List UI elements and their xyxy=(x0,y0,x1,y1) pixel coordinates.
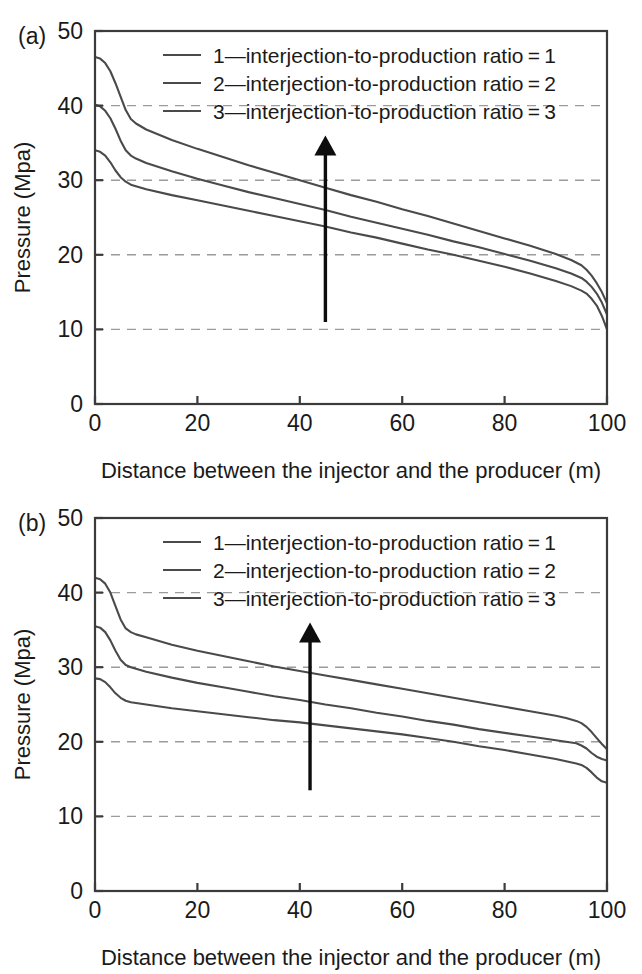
curve-ratio-1 xyxy=(95,150,607,329)
curves-group xyxy=(95,57,607,329)
legend-label-1: 1—interjection-to-production ratio = 1 xyxy=(213,531,556,554)
legend-label-3: 3—interjection-to-production ratio = 3 xyxy=(213,100,556,123)
y-tick-label-50: 50 xyxy=(57,18,83,44)
legend-label-1: 1—interjection-to-production ratio = 1 xyxy=(213,44,556,67)
y-tick-label-10: 10 xyxy=(57,803,83,829)
chart-panel-a: 02040608010001020304050Distance between … xyxy=(0,0,642,487)
x-tick-label-100: 100 xyxy=(588,410,626,436)
legend-label-2: 2—interjection-to-production ratio = 2 xyxy=(213,559,556,582)
x-axis-title: Distance between the injector and the pr… xyxy=(101,945,601,970)
y-tick-label-30: 30 xyxy=(57,167,83,193)
x-tick-label-60: 60 xyxy=(389,897,415,923)
chart-panel-b: 02040608010001020304050Distance between … xyxy=(0,487,642,974)
curve-ratio-1 xyxy=(95,678,607,782)
x-tick-label-0: 0 xyxy=(89,410,102,436)
y-tick-label-50: 50 xyxy=(57,505,83,531)
y-axis: 01020304050 xyxy=(57,505,103,904)
legend: 1—interjection-to-production ratio = 12—… xyxy=(163,531,556,610)
y-axis: 01020304050 xyxy=(57,18,103,417)
y-tick-label-40: 40 xyxy=(57,580,83,606)
curve-ratio-2 xyxy=(95,626,607,760)
y-tick-label-0: 0 xyxy=(70,391,83,417)
legend-label-3: 3—interjection-to-production ratio = 3 xyxy=(213,587,556,610)
panel-label: (b) xyxy=(18,510,46,536)
x-tick-label-100: 100 xyxy=(588,897,626,923)
y-tick-label-30: 30 xyxy=(57,654,83,680)
gridlines xyxy=(95,593,607,817)
chart-svg-b: 02040608010001020304050Distance between … xyxy=(0,487,642,974)
curve-ratio-2 xyxy=(95,105,607,315)
x-tick-label-80: 80 xyxy=(492,897,518,923)
x-tick-label-80: 80 xyxy=(492,410,518,436)
x-axis: 020406080100 xyxy=(89,883,627,923)
x-tick-label-20: 20 xyxy=(185,897,211,923)
y-tick-label-0: 0 xyxy=(70,878,83,904)
figure-container: 02040608010001020304050Distance between … xyxy=(0,0,642,974)
legend: 1—interjection-to-production ratio = 12—… xyxy=(163,44,556,123)
x-tick-label-20: 20 xyxy=(185,410,211,436)
x-axis: 020406080100 xyxy=(89,396,627,436)
y-tick-label-20: 20 xyxy=(57,729,83,755)
legend-label-2: 2—interjection-to-production ratio = 2 xyxy=(213,72,556,95)
y-tick-label-10: 10 xyxy=(57,316,83,342)
x-axis-title: Distance between the injector and the pr… xyxy=(101,458,601,483)
x-tick-label-40: 40 xyxy=(287,410,313,436)
arrow-head-icon xyxy=(314,135,336,155)
y-tick-label-20: 20 xyxy=(57,242,83,268)
y-tick-label-40: 40 xyxy=(57,93,83,119)
x-tick-label-60: 60 xyxy=(389,410,415,436)
trend-arrow-annotation xyxy=(299,622,321,790)
x-tick-label-0: 0 xyxy=(89,897,102,923)
chart-svg-a: 02040608010001020304050Distance between … xyxy=(0,0,642,487)
arrow-head-icon xyxy=(299,622,321,642)
y-axis-title: Pressure (Mpa) xyxy=(10,142,35,294)
y-axis-title: Pressure (Mpa) xyxy=(10,629,35,781)
x-tick-label-40: 40 xyxy=(287,897,313,923)
panel-label: (a) xyxy=(18,23,46,49)
